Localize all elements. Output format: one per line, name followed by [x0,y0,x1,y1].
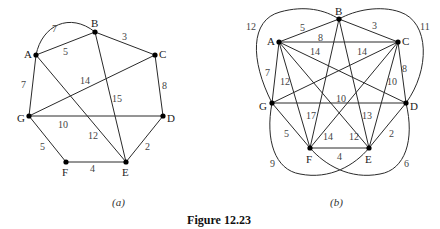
vertex-A [276,39,281,44]
curved-edge-weight-B-D: 11 [420,21,430,32]
vertex-C [152,52,157,57]
edge-D-E [369,103,406,148]
edge-weight-C-E: 10 [387,76,397,87]
edge-weight-B-C: 3 [372,20,377,31]
curved-edge-B-D [339,9,423,103]
edge-weight-F-G: 5 [40,141,45,152]
edge-A-G [272,42,279,103]
vertex-F [63,159,68,164]
vertex-B [92,29,97,34]
edge-weight-E-F: 4 [90,163,95,174]
vertex-A [33,52,38,57]
edge-weight-G-A: 7 [21,79,26,90]
vertex-G [269,100,274,105]
edge-G-C [29,55,155,116]
graph-a: 5738245714101215ABCDEFG [17,17,175,178]
edge-weight-C-D: 8 [402,63,407,74]
edge-weight-A-B: 5 [63,46,68,57]
curved-edge-weight-G-E: 9 [270,158,275,169]
edge-G-A [29,55,36,116]
edge-weight-A-B: 7 [52,23,57,34]
edge-D-E [126,116,163,162]
edge-weight-D-E: 2 [389,128,394,139]
edge-A-E [36,55,126,162]
edge-weight-A-C: 8 [318,32,323,43]
vertex-label-C: C [402,35,409,47]
vertex-label-F: F [306,153,312,165]
vertex-F [307,145,312,150]
vertex-label-D: D [167,112,175,124]
vertex-E [366,145,371,150]
vertex-G [26,113,31,118]
figure-caption: Figure 12.23 [187,213,251,227]
vertex-label-A: A [24,48,32,60]
vertex-C [395,39,400,44]
vertex-D [403,100,408,105]
edge-A-B [279,19,339,42]
curved-edge-G-B [256,9,339,103]
edge-G-F [272,103,310,148]
edge-weight-C-D: 8 [162,80,167,91]
vertex-label-E: E [122,166,129,178]
vertex-label-A: A [267,35,275,47]
subfigure-label-a: (a) [112,196,125,209]
edge-weight-A-G: 7 [265,67,270,78]
edge-weight-B-C: 3 [122,31,127,42]
edge-weight-A-F: 12 [280,76,290,87]
vertex-label-B: B [335,5,342,17]
edge-weight-A-D: 14 [310,46,320,57]
edge-weight-B-F: 17 [306,110,316,121]
edge-weight-A-B: 5 [300,22,305,33]
vertex-E [123,159,128,164]
curved-edge-weight-F-D: 6 [404,158,409,169]
vertex-label-D: D [410,100,418,112]
subfigure-label-b: (b) [330,196,343,209]
edge-weight-G-D: 10 [58,119,68,130]
vertex-D [160,113,165,118]
edge-weight-F-E: 4 [337,151,342,162]
edge-weight-G-F: 5 [284,128,289,139]
vertex-label-G: G [259,100,267,112]
edge-weight-B-E: 13 [362,110,372,121]
graph-figure: 5738245714101215ABCDEFG 5381414712810101… [0,0,440,229]
edge-weight-A-E: 12 [349,131,359,142]
edge-weight-B-E: 15 [112,93,122,104]
vertex-label-E: E [365,153,372,165]
graph-b: 53814147128101017135241214121196ABCDEFG [246,5,430,175]
vertex-label-C: C [159,48,166,60]
curved-edge-weight-G-B: 12 [246,21,256,32]
edge-weight-G-C: 14 [80,75,90,86]
edge-weight-G-D: 10 [336,93,346,104]
edge-weight-A-E: 12 [88,130,98,141]
edge-weight-C-G: 14 [357,46,367,57]
vertex-label-B: B [91,17,98,29]
vertex-B [336,16,341,21]
vertex-label-G: G [17,112,25,124]
edge-B-C [339,19,398,42]
vertex-label-F: F [62,166,68,178]
edge-weight-D-E: 2 [145,141,150,152]
edge-C-G [272,42,398,103]
edge-weight-C-F: 14 [323,131,333,142]
